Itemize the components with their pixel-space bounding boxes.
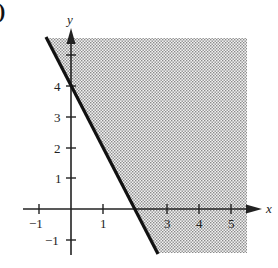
y-tick-label: 2 — [54, 141, 61, 156]
x-axis-label: x — [265, 201, 272, 216]
x-tick-label: 3 — [164, 216, 171, 231]
x-tick-label: 5 — [228, 216, 235, 231]
y-tick-label: −1 — [45, 233, 59, 248]
y-axis-arrow-icon — [67, 28, 76, 44]
y-axis-label: y — [65, 12, 73, 27]
x-tick-label: 4 — [196, 216, 203, 231]
x-tick-label: −1 — [29, 216, 43, 231]
shaded-region — [47, 38, 247, 253]
x-tick-label: 1 — [100, 216, 107, 231]
inequality-graph: ) y x −1 1 3 4 5 4 3 2 1 −1 — [0, 0, 278, 268]
y-tick-label: 4 — [54, 79, 61, 94]
y-tick-label: 1 — [55, 171, 62, 186]
y-tick-label: 3 — [54, 110, 61, 125]
panel-label: ) — [0, 0, 5, 23]
x-axis-arrow-icon — [246, 205, 262, 214]
